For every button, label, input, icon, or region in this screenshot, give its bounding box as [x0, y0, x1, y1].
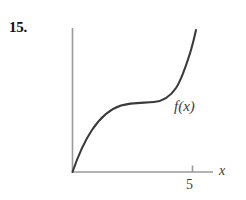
graph-figure: [0, 0, 246, 200]
curve-label-fx: f(x): [174, 99, 195, 114]
x-axis-tick-label-5: 5: [186, 178, 193, 192]
figure-page: 15. f(x) x 5: [0, 0, 246, 200]
x-axis-label: x: [219, 164, 225, 178]
